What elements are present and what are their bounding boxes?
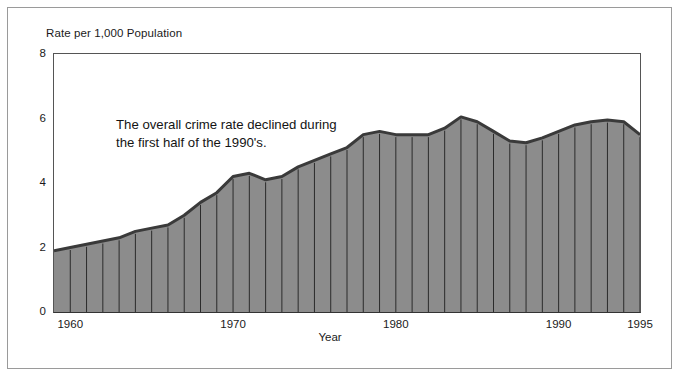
x-axis-title: Year	[300, 331, 360, 343]
x-axis-tick-labels: 19601970198019901995	[0, 0, 681, 377]
x-tick-1980: 1980	[366, 318, 426, 330]
x-tick-1960: 1960	[40, 318, 100, 330]
chart-figure: Rate per 1,000 Population 02468 The over…	[0, 0, 681, 377]
x-tick-1970: 1970	[203, 318, 263, 330]
x-tick-1990: 1990	[529, 318, 589, 330]
x-tick-1995: 1995	[610, 318, 670, 330]
